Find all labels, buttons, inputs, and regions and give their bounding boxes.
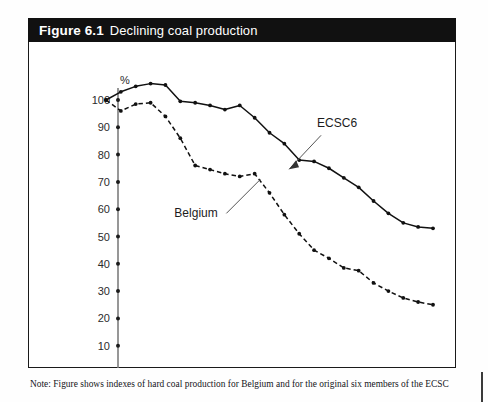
- leader-line-belgium: [226, 179, 260, 213]
- y-tick-mark: [116, 98, 120, 102]
- y-tick-label: 80: [98, 149, 110, 161]
- data-point-ecsc6: [342, 176, 346, 180]
- leader-arrow-ecsc6: [289, 160, 299, 169]
- y-tick-mark: [116, 289, 120, 293]
- data-point-ecsc6: [149, 82, 153, 86]
- data-point-ecsc6: [119, 90, 123, 94]
- figure-note: Note: Figure shows indexes of hard coal …: [30, 378, 458, 391]
- annotation-label-belgium: Belgium: [174, 206, 217, 220]
- data-point-belgium: [431, 303, 435, 307]
- series-line-belgium: [106, 100, 433, 305]
- y-axis-unit-label: %: [120, 74, 130, 86]
- data-point-ecsc6: [401, 221, 405, 225]
- data-point-belgium: [208, 168, 212, 172]
- data-point-ecsc6: [134, 84, 138, 88]
- y-axis-ticks: 102030405060708090100: [92, 94, 120, 368]
- y-tick-mark: [116, 180, 120, 184]
- data-point-belgium: [119, 109, 123, 113]
- data-point-belgium: [416, 300, 420, 304]
- y-tick-mark: [116, 235, 120, 239]
- data-point-ecsc6: [282, 142, 286, 146]
- annotation-label-ecsc6: ECSC6: [317, 116, 357, 130]
- data-point-ecsc6: [253, 116, 257, 120]
- y-tick-label: 10: [98, 340, 110, 352]
- data-point-ecsc6: [327, 166, 331, 170]
- y-tick-mark: [116, 262, 120, 266]
- data-point-ecsc6: [372, 199, 376, 203]
- page-title: Declining coal production: [110, 23, 258, 38]
- data-point-ecsc6: [223, 108, 227, 112]
- data-point-belgium: [149, 101, 153, 105]
- note-line-1: Note: Figure shows indexes of hard coal …: [30, 379, 449, 389]
- data-point-belgium: [312, 248, 316, 252]
- y-tick-label: 60: [98, 203, 110, 215]
- data-point-ecsc6: [193, 101, 197, 105]
- data-point-ecsc6: [164, 83, 168, 87]
- y-tick-label: 90: [98, 121, 110, 133]
- page-edge-rule: [481, 372, 483, 402]
- data-point-ecsc6: [268, 131, 272, 135]
- data-point-belgium: [104, 98, 108, 102]
- data-point-ecsc6: [312, 160, 316, 164]
- data-point-belgium: [178, 136, 182, 140]
- data-point-belgium: [357, 269, 361, 273]
- y-tick-label: 30: [98, 285, 110, 297]
- y-tick-label: 40: [98, 258, 110, 270]
- data-point-ecsc6: [208, 104, 212, 108]
- data-point-belgium: [401, 296, 405, 300]
- data-point-ecsc6: [431, 226, 435, 230]
- figure-container: Figure 6.1 Declining coal production % 1…: [28, 18, 456, 368]
- y-tick-label: 50: [98, 231, 110, 243]
- data-point-ecsc6: [387, 211, 391, 215]
- data-point-belgium: [253, 172, 257, 176]
- data-point-ecsc6: [238, 104, 242, 108]
- y-tick-mark: [116, 316, 120, 320]
- data-point-belgium: [268, 191, 272, 195]
- line-chart: % 102030405060708090100 1955195719591961…: [28, 42, 456, 368]
- data-point-belgium: [327, 256, 331, 260]
- data-point-belgium: [372, 281, 376, 285]
- data-point-ecsc6: [178, 99, 182, 103]
- y-tick-label: 70: [98, 176, 110, 188]
- data-point-belgium: [297, 232, 301, 236]
- y-tick-mark: [116, 344, 120, 348]
- data-point-ecsc6: [416, 225, 420, 229]
- figure-title-bar: Figure 6.1 Declining coal production: [28, 18, 456, 42]
- data-point-ecsc6: [357, 185, 361, 189]
- data-point-belgium: [238, 175, 242, 179]
- data-point-belgium: [342, 266, 346, 270]
- data-point-belgium: [164, 114, 168, 118]
- chart-series: [104, 82, 435, 307]
- y-tick-mark: [116, 125, 120, 129]
- data-point-belgium: [193, 164, 197, 168]
- series-line-ecsc6: [106, 84, 433, 229]
- data-point-belgium: [134, 102, 138, 106]
- y-tick-mark: [116, 153, 120, 157]
- data-point-belgium: [387, 289, 391, 293]
- data-point-belgium: [223, 172, 227, 176]
- figure-number: Figure 6.1: [39, 23, 104, 38]
- y-tick-mark: [116, 207, 120, 211]
- y-tick-label: 20: [98, 312, 110, 324]
- data-point-belgium: [282, 213, 286, 217]
